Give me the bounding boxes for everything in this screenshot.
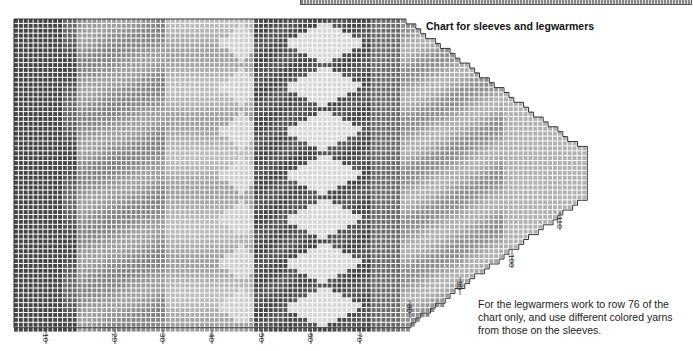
row-label: 100: [507, 254, 516, 268]
chart-title: Chart for sleeves and legwarmers: [426, 20, 594, 32]
row-label: 80: [405, 304, 414, 313]
row-label: 20: [110, 333, 119, 342]
row-label: 60: [306, 333, 315, 342]
row-label: 40: [207, 333, 216, 342]
row-label: 70: [355, 333, 364, 342]
row-label: 50: [257, 333, 266, 342]
legwarmer-note: For the legwarmers work to row 76 of the…: [478, 298, 688, 337]
row-label: 90: [455, 281, 464, 290]
row-label: 110: [555, 216, 564, 229]
row-label: 30: [158, 333, 167, 342]
row-label: 10: [41, 333, 50, 342]
